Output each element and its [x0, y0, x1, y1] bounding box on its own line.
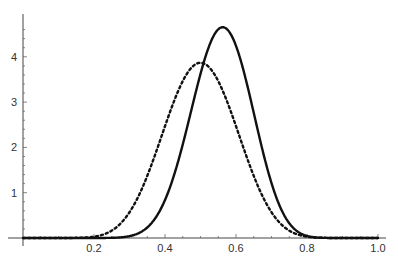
y-axis-ticks — [23, 30, 27, 229]
x-tick-label: 0.2 — [86, 242, 101, 254]
y-axis-tick-labels: 1234 — [11, 51, 17, 199]
y-tick-label: 1 — [11, 187, 17, 199]
x-axis-tick-labels: 0.20.40.60.81.0 — [86, 242, 385, 254]
y-tick-label: 2 — [11, 141, 17, 153]
solid-curve — [23, 27, 378, 238]
y-tick-label: 3 — [11, 96, 17, 108]
density-chart: 0.20.40.60.81.0 1234 — [0, 0, 398, 268]
x-tick-label: 0.4 — [157, 242, 172, 254]
dotted-curve — [23, 63, 378, 238]
x-tick-label: 1.0 — [370, 242, 385, 254]
x-tick-label: 0.8 — [299, 242, 314, 254]
y-axis: 1234 — [11, 14, 27, 246]
y-tick-label: 4 — [11, 51, 17, 63]
x-tick-label: 0.6 — [228, 242, 243, 254]
